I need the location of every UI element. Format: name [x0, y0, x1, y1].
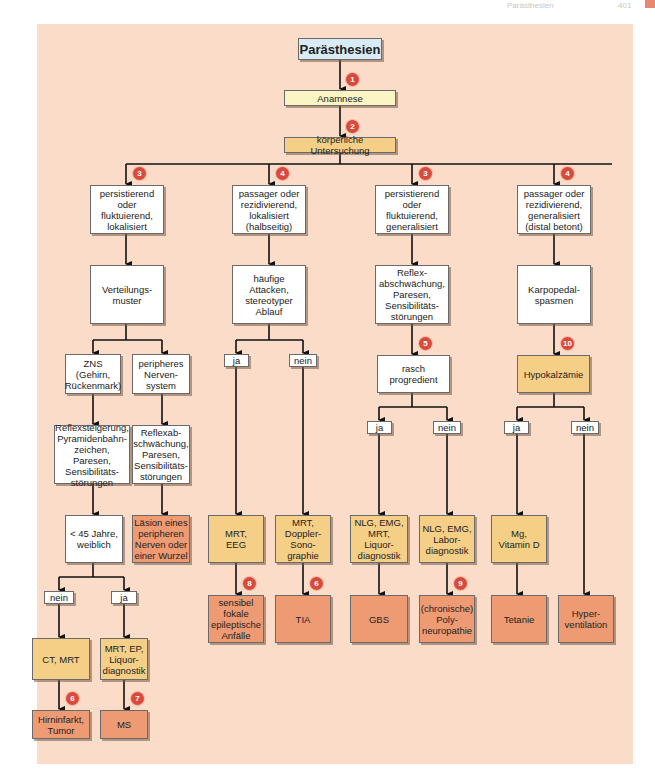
node-nlg-labor: NLG, EMG, Labor- diagnostik: [419, 515, 475, 563]
chapter-tab: [645, 0, 655, 8]
running-title: Parästhesien: [507, 1, 554, 10]
badge-3-col3: 3: [419, 167, 432, 180]
node-karpopedalspasmen: Karpopedal- spasmen: [517, 265, 591, 324]
badge-2: 2: [346, 120, 359, 133]
node-epileptic-seizures: sensibel fokale epileptische Anfälle: [208, 595, 264, 643]
node-pns: peripheres Nerven- system: [132, 354, 190, 394]
badge-3-col1: 3: [133, 167, 146, 180]
node-c3-ja: ja: [367, 421, 392, 434]
node-age-female: < 45 Jahre, weiblich: [65, 515, 123, 563]
node-age-ja: ja: [111, 591, 137, 604]
node-mrt-ep: MRT, EP, Liquor- diagnostik: [100, 638, 148, 680]
node-ct-mrt: CT, MRT: [32, 638, 90, 680]
badge-8: 8: [243, 577, 256, 590]
badge-1: 1: [346, 73, 359, 86]
node-hypokalzaemie: Hypokalzämie: [517, 355, 590, 393]
node-c4-nein: nein: [571, 421, 599, 434]
badge-6-tia: 6: [310, 577, 323, 590]
page-header: Parästhesien 401: [0, 0, 655, 16]
node-nlg-mrt: NLG, EMG, MRT, Liquor- diagnostik: [350, 515, 408, 563]
node-exam: körperliche Untersuchung: [284, 137, 396, 153]
badge-7: 7: [131, 692, 144, 705]
node-c2: passager oder rezidivierend, lokalisiert…: [232, 185, 306, 234]
node-c3: persistierend oder fluktuierend, general…: [375, 185, 449, 234]
node-reflexabschwaechung: Reflex- abschwächung, Paresen, Sensibili…: [375, 265, 449, 324]
badge-4-col4: 4: [561, 167, 574, 180]
node-attacken: häufige Attacken, stereotyper Ablauf: [232, 265, 306, 324]
node-c4: passager oder rezidivierend, generalisie…: [517, 185, 591, 234]
badge-10: 10: [561, 337, 574, 350]
node-tia: TIA: [275, 595, 331, 643]
badge-4-col2: 4: [276, 167, 289, 180]
node-mrt-eeg: MRT, EEG: [208, 515, 264, 563]
node-mrt-doppler: MRT, Doppler- Sono- graphie: [275, 515, 331, 563]
node-zns-symptoms: Reflexsteigerung, Pyramidenbahn- zeichen…: [54, 425, 130, 484]
node-peripheral-lesion: Läsion eines peripheren Nerven oder eine…: [132, 515, 190, 563]
node-pns-symptoms: Reflexab- schwächung, Paresen, Sensibili…: [132, 425, 190, 484]
node-root: Parästhesien: [298, 38, 382, 60]
node-zns: ZNS (Gehirn, Rückenmark): [65, 354, 121, 394]
badge-9: 9: [454, 577, 467, 590]
page-number: 401: [618, 1, 631, 10]
node-c1: persistierend oder fluktuierend, lokalis…: [90, 185, 164, 234]
node-age-nein: nein: [44, 591, 74, 604]
node-c2-nein: nein: [289, 354, 317, 367]
node-c4-ja: ja: [504, 421, 529, 434]
badge-6-infarkt: 6: [66, 692, 79, 705]
node-rasch-progredient: rasch progredient: [377, 355, 450, 393]
node-verteilungsmuster: Verteilungs- muster: [90, 265, 164, 324]
node-infarkt-tumor: Hirninfarkt, Tumor: [32, 710, 90, 739]
node-ms: MS: [100, 710, 148, 739]
node-c3-nein: nein: [433, 421, 461, 434]
node-gbs: GBS: [350, 595, 408, 643]
node-c2-ja: ja: [224, 354, 249, 367]
node-mg-vitamin-d: Mg, Vitamin D: [491, 515, 547, 563]
badge-5: 5: [419, 337, 432, 350]
node-polyneuropathie: (chronische) Poly- neuropathie: [419, 595, 475, 643]
node-anamnese: Anamnese: [284, 90, 396, 106]
node-tetanie: Tetanie: [491, 595, 547, 643]
node-hyperventilation: Hyper- ventilation: [558, 595, 614, 643]
